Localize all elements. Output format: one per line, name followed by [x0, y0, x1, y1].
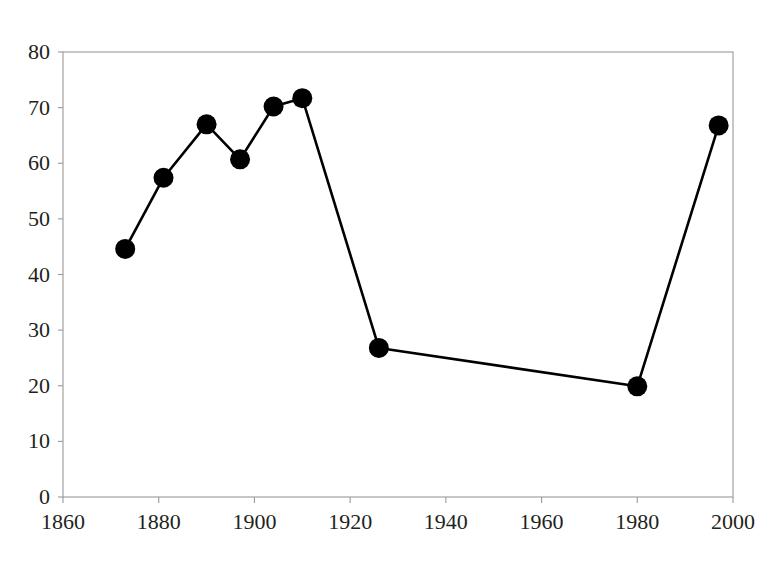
data-point-marker [709, 115, 729, 135]
chart-figure: 01020304050607080 1860188019001920194019… [0, 0, 776, 565]
y-axis-tick-label: 40 [0, 264, 50, 286]
y-axis-tick-label: 70 [0, 97, 50, 119]
y-axis-tick-label: 20 [0, 375, 50, 397]
x-axis-tick-label: 1960 [497, 511, 587, 533]
data-point-marker [264, 97, 284, 117]
data-point-marker [292, 88, 312, 108]
y-axis-tick-label: 10 [0, 430, 50, 452]
y-axis-tick-label: 80 [0, 41, 50, 63]
plot-frame [63, 52, 733, 497]
data-point-marker [197, 114, 217, 134]
y-axis-ticks [58, 52, 63, 497]
x-axis-tick-label: 1880 [114, 511, 204, 533]
data-point-marker [230, 149, 250, 169]
data-point-marker [154, 168, 174, 188]
data-point-marker [627, 376, 647, 396]
data-point-marker [115, 239, 135, 259]
plot-border [63, 52, 733, 497]
y-axis-tick-label: 60 [0, 152, 50, 174]
x-axis-tick-label: 2000 [688, 511, 776, 533]
x-axis-tick-label: 1920 [305, 511, 395, 533]
x-axis-tick-label: 1980 [592, 511, 682, 533]
y-axis-tick-label: 30 [0, 319, 50, 341]
line-chart-plot [0, 0, 776, 565]
x-axis-ticks [63, 497, 733, 503]
y-axis-tick-label: 50 [0, 208, 50, 230]
x-axis-tick-label: 1940 [401, 511, 491, 533]
y-axis-tick-label: 0 [0, 486, 50, 508]
x-axis-tick-label: 1900 [209, 511, 299, 533]
x-axis-tick-label: 1860 [18, 511, 108, 533]
data-point-marker [369, 338, 389, 358]
